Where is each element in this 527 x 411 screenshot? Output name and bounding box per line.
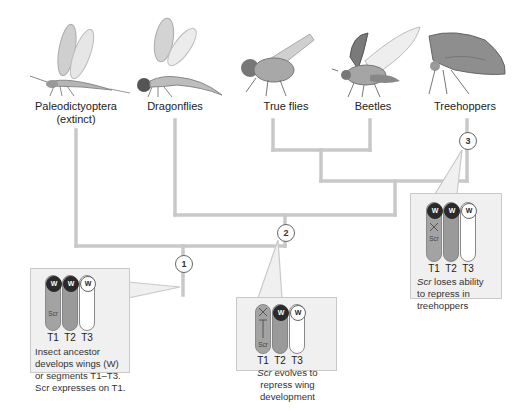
callout-caption: Insect ancestor develops wings (W) or se… <box>35 346 130 394</box>
thoracic-segments: Scr W W <box>255 304 305 354</box>
segment-t3: W <box>79 275 95 331</box>
segment-label: T2 <box>272 355 288 366</box>
segment-label: T3 <box>460 263 476 274</box>
segment-t2: W <box>272 304 288 354</box>
callout-box-node-3: W Scr W W T1 T2 T3 Scr loses ability to … <box>410 193 502 299</box>
wing-icon: W <box>273 305 289 321</box>
wing-suppressed-x-icon <box>257 306 269 318</box>
thoracic-segments: W Scr W W <box>426 202 476 262</box>
segment-label: T1 <box>255 355 271 366</box>
wing-icon: W <box>46 276 62 292</box>
scr-label: Scr <box>427 235 441 242</box>
scr-label: Scr <box>256 341 270 348</box>
segment-label: T1 <box>45 332 61 343</box>
segment-label: T1 <box>426 263 442 274</box>
segment-t1: W Scr <box>45 275 61 331</box>
segment-labels: T1 T2 T3 <box>426 263 476 274</box>
callout-box-node-2: Scr W W T1 T2 T3 <box>236 297 337 371</box>
segment-t2: W <box>62 275 78 331</box>
segment-label: T3 <box>289 355 305 366</box>
segment-labels: T1 T2 T3 <box>255 355 305 366</box>
wing-icon: W <box>80 276 96 292</box>
wing-icon: W <box>444 203 460 219</box>
thoracic-segments: W Scr W W <box>45 275 95 331</box>
segment-labels: T1 T2 T3 <box>45 332 95 343</box>
callout-caption: Scr loses ability to repress in treehopp… <box>417 276 502 312</box>
segment-label: T3 <box>79 332 95 343</box>
wing-icon: W <box>290 305 306 321</box>
wing-icon: W <box>461 203 477 219</box>
wing-icon: W <box>427 203 443 219</box>
node-marker-3: 3 <box>459 132 477 150</box>
segment-label: T2 <box>62 332 78 343</box>
callout-caption-node-2: Scr evolves to repress wing development <box>240 367 335 403</box>
scr-label: Scr <box>46 310 60 317</box>
callout-box-node-1: W Scr W W T1 T2 T3 Insect ancestor devel… <box>30 268 130 373</box>
segment-t2: W <box>443 202 459 262</box>
scr-loss-x-icon <box>428 221 440 233</box>
segment-t3: W <box>460 202 476 262</box>
segment-label: T2 <box>443 263 459 274</box>
repression-bar-icon <box>257 319 269 339</box>
node-marker-2: 2 <box>277 224 295 242</box>
segment-t1: Scr <box>255 304 271 354</box>
node-marker-1: 1 <box>175 255 193 273</box>
segment-t3: W <box>289 304 305 354</box>
segment-t1: W Scr <box>426 202 442 262</box>
wing-icon: W <box>63 276 79 292</box>
